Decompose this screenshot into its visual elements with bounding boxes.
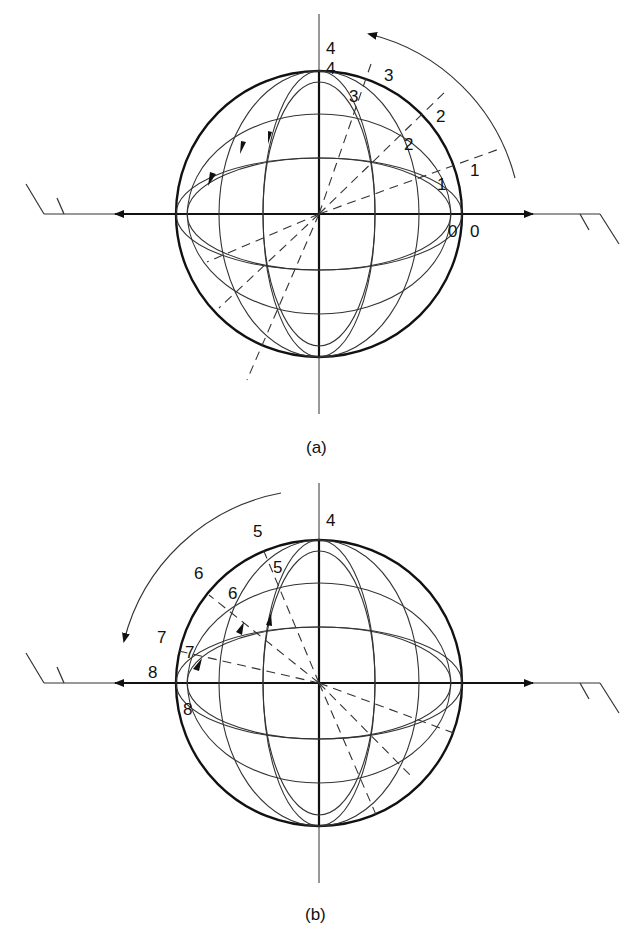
diagram-canvas: 0 1 2 3 4 0 1 2 3 4 (a) bbox=[0, 0, 638, 937]
panel-b: 4 5 6 7 8 5 6 7 8 bbox=[26, 483, 619, 883]
label-outer-5: 5 bbox=[253, 522, 262, 541]
label-outer-1: 1 bbox=[470, 161, 479, 180]
ellipse-direction-arrow bbox=[236, 622, 244, 635]
hatch-left bbox=[26, 653, 64, 683]
label-inner-4: 4 bbox=[326, 59, 335, 78]
label-outer-0: 0 bbox=[470, 222, 479, 241]
label-outer-7: 7 bbox=[157, 628, 166, 647]
dashed-radials bbox=[207, 64, 502, 380]
ellipse-direction-arrow bbox=[266, 613, 272, 626]
label-inner-8: 8 bbox=[183, 700, 192, 719]
label-outer-2: 2 bbox=[436, 107, 445, 126]
label-outer-3: 3 bbox=[384, 66, 393, 85]
label-inner-2: 2 bbox=[404, 135, 413, 154]
label-inner-0: 0 bbox=[448, 222, 457, 241]
hatch-right bbox=[580, 683, 619, 713]
caption-b: (b) bbox=[305, 905, 326, 924]
label-inner-5: 5 bbox=[273, 558, 282, 577]
ellipse-direction-arrow bbox=[240, 141, 246, 154]
label-outer-4: 4 bbox=[326, 511, 335, 530]
label-outer-6: 6 bbox=[194, 564, 203, 583]
label-inner-7: 7 bbox=[185, 643, 194, 662]
hatch-right bbox=[580, 214, 619, 244]
label-inner-1: 1 bbox=[437, 175, 446, 194]
rotation-arc-arrow bbox=[369, 34, 515, 178]
caption-a: (a) bbox=[306, 438, 327, 457]
label-inner-3: 3 bbox=[349, 87, 358, 106]
label-outer-8: 8 bbox=[148, 663, 157, 682]
hatch-left bbox=[26, 184, 64, 214]
label-inner-6: 6 bbox=[228, 584, 237, 603]
label-outer-4: 4 bbox=[326, 39, 335, 58]
outer-labels: 0 1 2 3 4 bbox=[326, 39, 479, 241]
outer-labels: 4 5 6 7 8 bbox=[148, 511, 335, 682]
panel-a: 0 1 2 3 4 0 1 2 3 4 bbox=[26, 14, 619, 414]
